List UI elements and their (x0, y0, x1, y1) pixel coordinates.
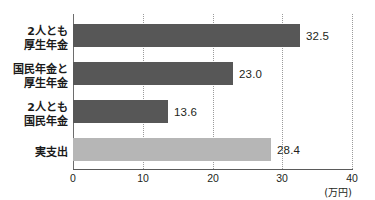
category-label-2: 2人とも 国民年金 (0, 101, 68, 128)
x-axis-line (73, 169, 353, 170)
bar-2 (73, 100, 168, 123)
bar-3 (73, 138, 271, 161)
bar-chart: 32.5 23.0 13.6 28.4 2人とも 厚生年金 国民年金と 厚生年金… (0, 0, 375, 200)
x-tick-label-2: 20 (207, 172, 219, 184)
x-tick-label-4: 40 (346, 172, 358, 184)
x-tick-label-1: 10 (137, 172, 149, 184)
category-label-1: 国民年金と 厚生年金 (0, 63, 68, 90)
gridline-40 (352, 14, 353, 169)
plot-area: 32.5 23.0 13.6 28.4 (73, 14, 352, 169)
bar-value-0: 32.5 (306, 30, 329, 42)
bar-value-1: 23.0 (239, 68, 262, 80)
bar-value-3: 28.4 (277, 144, 300, 156)
x-axis-unit-label: (万円) (324, 184, 352, 199)
category-label-3: 実支出 (0, 146, 68, 160)
bar-value-2: 13.6 (174, 106, 197, 118)
x-tick-label-3: 30 (276, 172, 288, 184)
bar-0 (73, 24, 300, 47)
bar-1 (73, 62, 233, 85)
x-tick-label-0: 0 (70, 172, 76, 184)
category-label-0: 2人とも 厚生年金 (0, 25, 68, 52)
